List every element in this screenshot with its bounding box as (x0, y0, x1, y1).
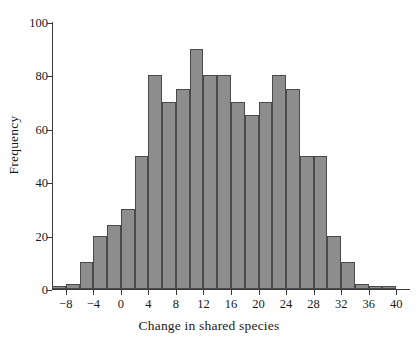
histogram-bar (286, 89, 300, 289)
x-tick-mark (314, 290, 315, 295)
y-tick-label: 100 (29, 15, 48, 31)
x-tick-mark (93, 290, 94, 295)
x-tick-label: 28 (307, 296, 320, 312)
histogram-bar (66, 284, 80, 289)
histogram-bar (300, 156, 314, 290)
x-tick-label: 32 (335, 296, 348, 312)
histogram-bar (93, 236, 107, 289)
x-tick-label: 8 (173, 296, 179, 312)
plot-area: 020406080100 −8−40481216202428323640 (52, 22, 410, 290)
histogram-bar (341, 262, 355, 289)
y-tick-label: 0 (42, 282, 48, 298)
histogram-bar (355, 284, 369, 289)
y-tick-label: 80 (36, 68, 49, 84)
histogram-bar (121, 209, 135, 289)
histogram-bar (314, 156, 328, 290)
histogram-figure: Frequency 020406080100 −8−40481216202428… (0, 0, 418, 351)
histogram-bar (217, 75, 231, 289)
x-tick-mark (369, 290, 370, 295)
y-tick-label: 60 (36, 122, 49, 138)
x-tick-mark (396, 290, 397, 295)
x-tick-label: −4 (87, 296, 100, 312)
x-axis-ticks: −8−40481216202428323640 (52, 290, 410, 291)
histogram-bar (162, 102, 176, 289)
x-tick-label: 36 (362, 296, 375, 312)
x-tick-mark (66, 290, 67, 295)
histogram-bar (259, 102, 273, 289)
x-tick-label: 16 (225, 296, 238, 312)
x-tick-label: 40 (390, 296, 403, 312)
x-tick-mark (341, 290, 342, 295)
x-tick-label: −8 (59, 296, 72, 312)
x-tick-label: 4 (145, 296, 151, 312)
histogram-bar (203, 75, 217, 289)
histogram-bar (382, 286, 396, 289)
histogram-bar (176, 89, 190, 289)
x-tick-mark (121, 290, 122, 295)
x-tick-mark (203, 290, 204, 295)
y-tick-label: 40 (36, 175, 49, 191)
histogram-bar (231, 102, 245, 289)
x-tick-mark (176, 290, 177, 295)
histogram-bar (245, 115, 259, 289)
y-tick-label: 20 (36, 229, 49, 245)
x-tick-label: 20 (252, 296, 265, 312)
x-axis-title: Change in shared species (0, 318, 418, 334)
histogram-bar (327, 236, 341, 289)
x-tick-label: 24 (280, 296, 293, 312)
y-axis-title: Frequency (2, 0, 26, 290)
histogram-bar (52, 286, 66, 289)
x-tick-mark (259, 290, 260, 295)
histogram-bar (369, 286, 383, 289)
histogram-bar (107, 225, 121, 289)
histogram-bar (135, 156, 149, 290)
x-tick-mark (286, 290, 287, 295)
x-tick-mark (148, 290, 149, 295)
histogram-bar (148, 75, 162, 289)
x-tick-mark (231, 290, 232, 295)
x-tick-label: 0 (118, 296, 124, 312)
x-tick-label: 12 (197, 296, 210, 312)
histogram-bar (272, 75, 286, 289)
bar-series (52, 22, 410, 289)
histogram-bar (80, 262, 94, 289)
y-axis-title-text: Frequency (6, 116, 22, 175)
histogram-bar (190, 49, 204, 289)
